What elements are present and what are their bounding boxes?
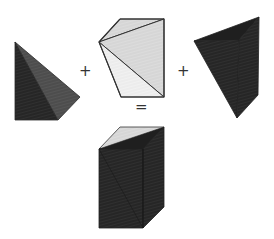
plus-operator-1: + xyxy=(79,64,92,79)
tetrahedron-middle xyxy=(99,19,164,97)
dissection-diagram xyxy=(0,0,274,239)
tetrahedron-right xyxy=(194,17,259,118)
triangular-prism xyxy=(99,127,164,228)
equals-operator: = xyxy=(135,100,148,115)
tetrahedron-left xyxy=(15,42,80,120)
plus-operator-2: + xyxy=(177,64,190,79)
